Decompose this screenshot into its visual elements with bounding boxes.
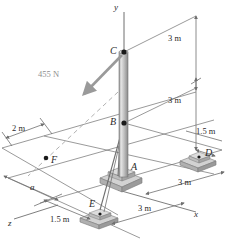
dimension-label-mid-3m: 3 m — [168, 96, 181, 105]
dimension-label-right-3m: 3 m — [178, 178, 191, 187]
dimension-label-bottom-15m: 1.5 m — [50, 215, 69, 224]
point-label-f: F — [51, 155, 57, 165]
point-label-b: B — [110, 117, 116, 127]
dimension-mid-3m — [191, 78, 201, 150]
upper-reference-lines — [124, 16, 196, 123]
point-dot-c — [121, 49, 126, 54]
point-dot-e — [98, 212, 101, 215]
dimension-left-2m — [2, 118, 52, 146]
dimension-label-left-2m: 2 m — [12, 124, 25, 133]
dimension-label-bottom-3m: 3 m — [138, 204, 151, 213]
axis-label-y: y — [114, 3, 118, 12]
dimension-label-right-15m: 1.5 m — [196, 127, 215, 136]
statics-figure: C B A D E F y x z 455 N 3 m 3 m 1.5 m 3 … — [0, 0, 226, 239]
point-label-c: C — [110, 46, 117, 56]
axis-label-z: z — [8, 219, 12, 228]
point-label-a: A — [131, 162, 137, 172]
axis-label-x: x — [194, 210, 198, 219]
point-dot-f — [44, 156, 49, 161]
point-dot-d — [197, 155, 200, 158]
axis-x — [118, 190, 196, 212]
pole-column — [119, 50, 128, 177]
force-label: 455 N — [38, 70, 59, 79]
point-label-d: D — [205, 148, 212, 158]
point-label-e: E — [89, 199, 95, 209]
dimension-label-top-3m: 3 m — [168, 34, 181, 43]
force-arrow — [84, 55, 122, 94]
dimension-label-left-a: a — [30, 183, 35, 192]
point-dot-b — [121, 120, 126, 125]
force-line-of-action — [28, 92, 118, 176]
